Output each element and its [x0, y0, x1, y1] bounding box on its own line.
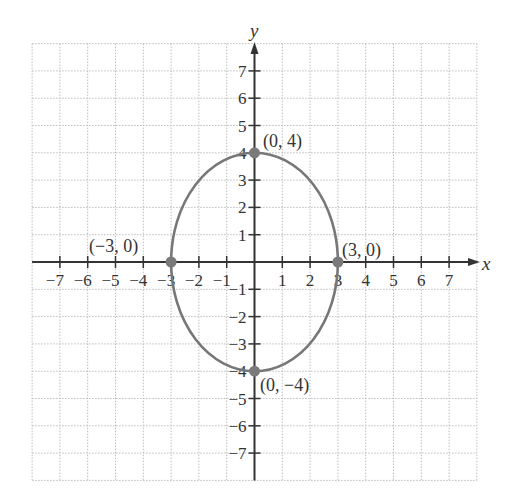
- intercept-point: [166, 257, 177, 268]
- point-label-right: (3, 0): [342, 240, 381, 261]
- intercept-point: [249, 366, 260, 377]
- x-tick-label: −2: [185, 271, 203, 290]
- x-tick-label: −4: [129, 271, 148, 290]
- point-label-left: (−3, 0): [89, 236, 138, 257]
- x-axis-arrow-icon: [468, 258, 480, 266]
- y-tick-label: −7: [228, 444, 247, 463]
- x-tick-label: −5: [101, 271, 119, 290]
- y-tick-label: −3: [228, 335, 246, 354]
- y-tick-label: 3: [238, 171, 247, 190]
- x-tick-label: 2: [306, 271, 315, 290]
- axes: [32, 42, 480, 480]
- y-axis-label: y: [248, 20, 259, 41]
- point-label-top: (0, 4): [263, 131, 302, 152]
- x-tick-label: 1: [278, 271, 287, 290]
- intercept-point: [249, 147, 260, 158]
- x-tick-label: −7: [46, 271, 65, 290]
- y-tick-label: 2: [238, 198, 247, 217]
- y-tick-label: −1: [228, 280, 246, 299]
- x-tick-label: 5: [389, 271, 398, 290]
- x-tick-label: −6: [74, 271, 92, 290]
- x-tick-label: 4: [361, 271, 370, 290]
- x-tick-label: 7: [445, 271, 454, 290]
- ellipse-graph: −7−6−5−4−3−2−11234567−7−6−5−4−3−2−112345…: [0, 0, 522, 500]
- y-tick-label: −5: [228, 390, 246, 409]
- x-tick-label: 6: [417, 271, 426, 290]
- y-tick-label: −4: [228, 362, 247, 381]
- y-tick-label: −6: [228, 417, 246, 436]
- y-tick-label: 5: [238, 117, 247, 136]
- x-axis-label: x: [481, 253, 491, 274]
- y-tick-label: 6: [238, 89, 247, 108]
- y-tick-label: 1: [238, 226, 247, 245]
- point-label-bottom: (0, −4): [260, 375, 309, 396]
- y-tick-label: −2: [228, 308, 246, 327]
- y-tick-label: 7: [238, 62, 247, 81]
